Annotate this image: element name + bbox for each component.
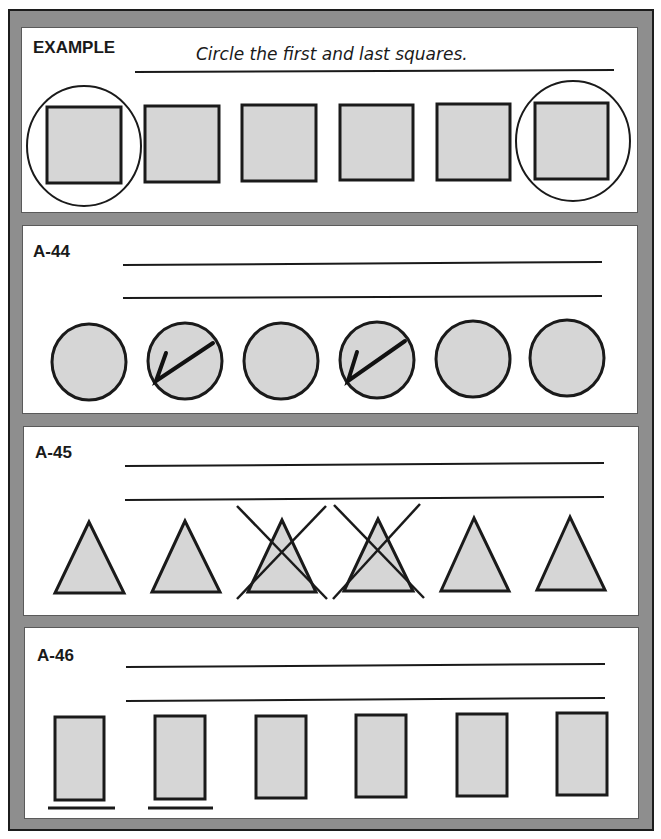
example-square-3 xyxy=(242,105,316,181)
a46-rectangle-2 xyxy=(155,716,205,799)
example-square-1 xyxy=(47,107,121,183)
example-square-2 xyxy=(145,106,219,182)
a46-rectangle-3 xyxy=(256,716,306,798)
a46-rectangle-4 xyxy=(356,715,406,797)
a44-circle-5 xyxy=(436,321,510,397)
example-square-6 xyxy=(535,103,608,179)
a44-answer-line-2 xyxy=(123,296,602,298)
a45-triangle-3 xyxy=(248,520,316,592)
example-square-5 xyxy=(437,104,510,180)
a45-triangle-4 xyxy=(344,519,413,591)
a46-answer-line-1 xyxy=(126,664,605,667)
a44-circle-6 xyxy=(530,320,604,396)
a44-answer-line-1 xyxy=(123,262,602,265)
example-instruction-line xyxy=(135,70,614,72)
a46-rectangle-1 xyxy=(55,717,104,800)
worksheet-art xyxy=(0,0,661,839)
a46-rectangle-6 xyxy=(557,713,607,795)
a45-triangle-6 xyxy=(537,517,605,590)
a45-triangle-2 xyxy=(152,521,220,592)
a45-answer-line-1 xyxy=(125,463,604,466)
a44-circle-3 xyxy=(244,323,318,399)
a45-answer-line-2 xyxy=(125,497,604,500)
a45-triangle-5 xyxy=(441,518,509,591)
example-square-4 xyxy=(340,105,413,180)
a46-rectangle-5 xyxy=(457,714,507,796)
a46-answer-line-2 xyxy=(126,698,605,701)
a45-triangle-1 xyxy=(55,522,124,593)
a44-circle-1 xyxy=(52,324,126,400)
